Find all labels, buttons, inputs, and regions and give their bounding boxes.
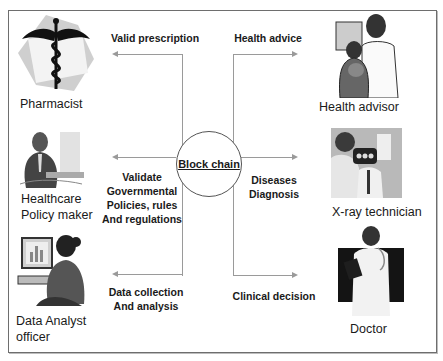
doctor-image	[338, 226, 404, 320]
pharmacist-image	[16, 13, 96, 93]
arrow-health-advice	[233, 54, 293, 55]
blockchain-hub: Block chain	[176, 131, 242, 197]
arrowhead-right-icon	[292, 51, 298, 57]
flow-label-data-collection: Data collection And analysis	[106, 285, 186, 313]
flow-label-valid-prescription: Valid prescription	[105, 31, 205, 45]
actor-label-health-advisor: Health advisor	[319, 99, 399, 115]
arrow-diseases-diagnosis	[240, 157, 293, 158]
data-analyst-image	[16, 232, 88, 308]
policy-maker-clipart-icon	[16, 128, 86, 190]
arrow-valid-prescription	[114, 54, 182, 55]
arrowhead-left-icon	[112, 51, 118, 57]
arrow-clinical-decision	[233, 275, 293, 276]
flow-label-validate-policies: Validate Governmental Policies, rules An…	[102, 170, 182, 226]
flow-label-diseases-diagnosis: Diseases Diagnosis	[244, 173, 304, 201]
health-advisor-image	[332, 12, 404, 98]
actor-label-xray-technician: X-ray technician	[332, 204, 422, 220]
hub-label: Block chain	[178, 158, 240, 170]
arrow-data-collection	[114, 274, 182, 275]
flow-label-health-advice: Health advice	[232, 31, 304, 45]
xray-technician-photo-icon	[331, 128, 402, 198]
arrow-validate-policies	[114, 157, 176, 158]
actor-label-doctor: Doctor	[350, 321, 387, 337]
doctor-clipart-icon	[338, 226, 404, 320]
actor-label-policy-maker: Healthcare Policy maker	[21, 191, 93, 223]
actor-label-data-analyst: Data Analyst officer	[16, 313, 86, 345]
actor-label-pharmacist: Pharmacist	[20, 96, 83, 112]
arrowhead-right-icon	[292, 154, 298, 160]
flow-label-clinical-decision: Clinical decision	[230, 289, 318, 303]
caduceus-icon	[16, 13, 96, 93]
data-analyst-clipart-icon	[16, 232, 88, 308]
arrowhead-right-icon	[292, 272, 298, 278]
arrowhead-left-icon	[112, 271, 118, 277]
arrowhead-left-icon	[112, 154, 118, 160]
xray-technician-image	[331, 128, 402, 198]
policy-maker-image	[16, 128, 86, 190]
health-advisor-clipart-icon	[332, 12, 404, 98]
